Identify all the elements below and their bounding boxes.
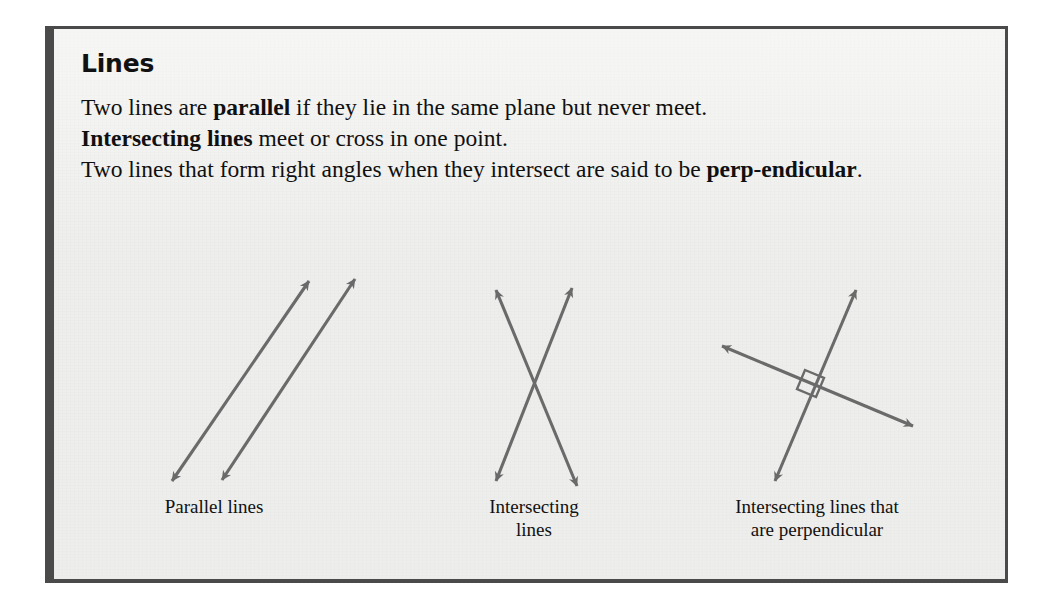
caption-perpendicular-lines: Intersecting lines that are perpendicula… (672, 495, 962, 541)
lines-callout-box: Lines Two lines are parallel if they lie… (45, 26, 1008, 583)
figure-parallel-lines (172, 279, 355, 481)
caption-intersecting-lines: Intersecting lines (439, 495, 629, 541)
perpendicular-line-vertical (775, 290, 856, 481)
caption-parallel-lines: Parallel lines (109, 495, 319, 518)
perpendicular-line-horizontal (722, 346, 913, 426)
page-root: Lines Two lines are parallel if they lie… (0, 0, 1042, 615)
intersecting-line-2 (496, 290, 577, 486)
callout-content: Lines Two lines are parallel if they lie… (54, 29, 1005, 579)
figure-perpendicular-lines (722, 290, 913, 481)
figure-intersecting-lines (496, 288, 577, 486)
